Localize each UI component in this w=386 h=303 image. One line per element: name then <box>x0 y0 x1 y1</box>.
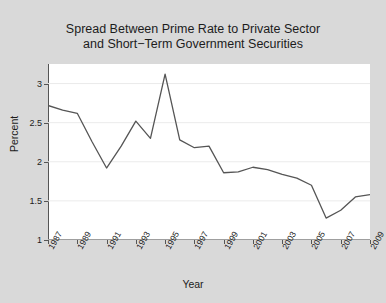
y-axis-tick-label: 1 <box>16 235 42 245</box>
x-axis-title: Year <box>0 278 386 290</box>
y-axis-tick <box>44 201 48 202</box>
y-axis-tick-label: 2.5 <box>16 118 42 128</box>
y-axis-tick-label: 3 <box>16 79 42 89</box>
y-axis-tick-label: 2 <box>16 157 42 167</box>
plot-area: 11.522.531987198919911993199519971999200… <box>48 64 370 240</box>
x-axis-tick-label: 2009 <box>368 230 386 251</box>
data-series-line <box>48 74 370 218</box>
y-axis-tick <box>44 123 48 124</box>
line-chart-svg <box>48 64 370 240</box>
chart-figure: Spread Between Prime Rate to Private Sec… <box>0 0 386 303</box>
y-axis-tick-label: 1.5 <box>16 196 42 206</box>
y-axis-tick <box>44 84 48 85</box>
y-axis-tick <box>44 162 48 163</box>
chart-title: Spread Between Prime Rate to Private Sec… <box>0 22 386 52</box>
